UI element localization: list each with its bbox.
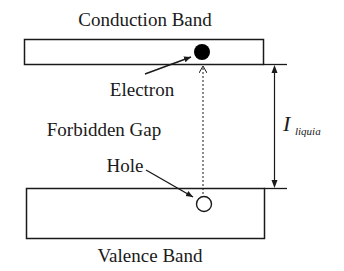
valence-band-label: Valence Band: [98, 245, 203, 266]
band-diagram: Conduction Band Electron Forbidden Gap H…: [0, 0, 344, 271]
electron-dot: [194, 44, 210, 60]
electron-label: Electron: [110, 79, 175, 100]
gap-subscript: liquia: [295, 125, 321, 137]
conduction-band-label: Conduction Band: [78, 9, 212, 30]
gap-arrow-bottom-icon: [272, 180, 278, 188]
valence-band: [27, 189, 265, 239]
hole-label: Hole: [107, 155, 144, 176]
forbidden-gap-label: Forbidden Gap: [47, 119, 162, 140]
hole-circle: [197, 197, 212, 212]
gap-symbol: I: [282, 111, 292, 136]
hole-pointer-arrow: [146, 170, 193, 197]
conduction-band: [25, 40, 264, 65]
electron-pointer-arrow: [145, 57, 191, 74]
gap-arrow-top-icon: [272, 65, 278, 73]
